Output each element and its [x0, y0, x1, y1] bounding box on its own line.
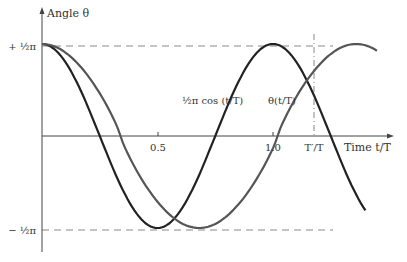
- x-axis-arrow-icon: [387, 134, 394, 139]
- cosine-curve-label: ½π cos (t/T): [182, 95, 243, 106]
- x-axis-label: Time t/T: [344, 141, 391, 154]
- x-tick-label-tprime: T′/T: [305, 142, 324, 153]
- theta-curve-label: θ(t/T): [268, 95, 296, 106]
- x-tick-label-05: 0.5: [150, 142, 166, 153]
- x-tick-label-10: 1.0: [265, 142, 281, 153]
- y-tick-label-bottom: − ½π: [8, 225, 36, 236]
- y-axis-label: Angle θ: [46, 7, 90, 20]
- y-tick-label-top: + ½π: [8, 41, 36, 52]
- y-axis-arrow-icon: [40, 7, 45, 14]
- pendulum-angle-chart: Angle θ + ½π − ½π 0.5 1.0 T′/T Time t/T …: [0, 0, 407, 262]
